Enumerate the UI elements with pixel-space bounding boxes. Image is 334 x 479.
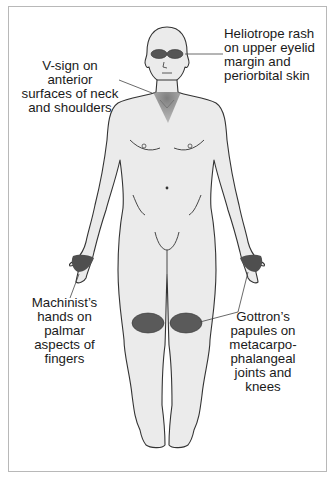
gottron-papules-knee-marker [132, 313, 202, 333]
label-heliotrope-rash: Heliotrope rash on upper eyelid margin a… [224, 27, 315, 83]
label-machinists-hands: Machinist’s hands on palmar aspects of f… [22, 296, 107, 366]
label-v-sign: V-sign on anterior surfaces of neck and … [18, 59, 122, 115]
label-gottrons-papules: Gottron’s papules on metacarpo- phalange… [222, 310, 304, 394]
